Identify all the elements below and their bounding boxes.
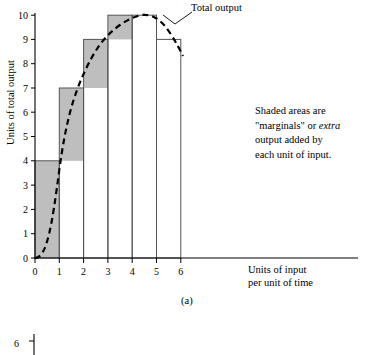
note-line-2-italic: extra (319, 120, 341, 131)
y-tick-label: 9 (23, 34, 28, 45)
note-line-1: Shaded areas are (255, 105, 326, 116)
shaded-marginal-1 (35, 161, 59, 258)
y-tick-label: 8 (23, 58, 28, 69)
x-tick-label: 1 (57, 266, 62, 277)
next-panel-tick-label: 6 (14, 338, 19, 349)
x-axis-title-line-1: Units of input (248, 264, 306, 275)
curve-label-leader-line (163, 12, 192, 24)
y-tick-label: 2 (23, 204, 28, 215)
y-axis-title: Units of total output (4, 60, 17, 146)
note-line-2-pre: "marginals" or (255, 120, 319, 131)
shaded-marginal-3 (84, 39, 108, 88)
total-output-curve-label: Total output (191, 2, 242, 13)
x-axis-title: Units of input per unit of time (248, 263, 358, 289)
bar-5 (132, 15, 156, 258)
note-line-4: each unit of input. (255, 149, 331, 160)
note-line-3: output added by (255, 134, 323, 145)
y-tick-label: 4 (23, 155, 28, 166)
y-tick-label: 0 (23, 253, 28, 264)
x-tick-label: 5 (154, 266, 159, 277)
x-axis-ticks (35, 258, 181, 263)
x-tick-label: 2 (81, 266, 86, 277)
figure-panel-a: 0 1 2 3 4 5 6 7 8 9 10 0 1 2 3 (0, 0, 366, 355)
shading-note: Shaded areas are "marginals" or extra ou… (255, 104, 363, 162)
y-tick-label: 7 (23, 83, 28, 94)
y-axis-tick-labels: 0 1 2 3 4 5 6 7 8 9 10 (18, 10, 28, 264)
x-tick-label: 3 (105, 266, 110, 277)
bar-6 (157, 39, 181, 258)
y-tick-label: 10 (18, 10, 28, 21)
y-tick-label: 1 (23, 228, 28, 239)
x-tick-label: 0 (33, 266, 38, 277)
y-tick-label: 3 (23, 180, 28, 191)
x-axis-title-line-2: per unit of time (248, 277, 313, 288)
x-tick-label: 6 (178, 266, 183, 277)
y-axis-ticks (31, 15, 35, 258)
bar-4 (108, 15, 132, 258)
y-tick-label: 5 (23, 131, 28, 142)
y-tick-label: 6 (23, 107, 28, 118)
next-panel-fragment (29, 334, 34, 355)
x-tick-label: 4 (130, 266, 135, 277)
x-axis-tick-labels: 0 1 2 3 4 5 6 (33, 266, 184, 277)
figure-caption: (a) (181, 295, 193, 306)
